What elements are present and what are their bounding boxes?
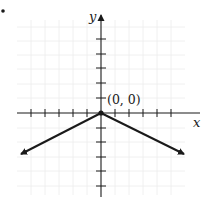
vertex-label: (0, 0) (107, 92, 141, 107)
left-ray (21, 113, 101, 154)
function-graph (21, 113, 184, 154)
right-ray (101, 113, 184, 154)
y-axis-label: y (88, 9, 97, 24)
graph-figure: y x (0, 0) (0, 0, 202, 197)
x-axis-label: x (193, 115, 201, 130)
bullet-marker (1, 9, 5, 13)
vertex-dot (98, 110, 103, 115)
